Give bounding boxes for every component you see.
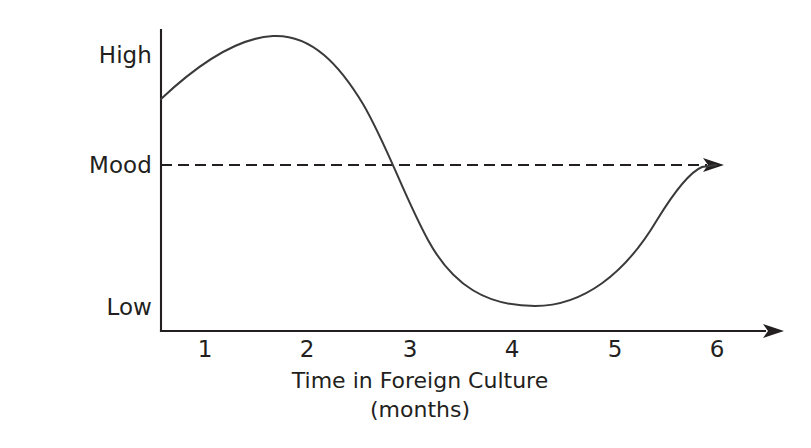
- x-tick-label-4: 4: [492, 338, 532, 361]
- x-axis-title-line-2: (months): [160, 395, 680, 424]
- mood-curve-line: [161, 36, 716, 306]
- x-tick-label-6: 6: [697, 338, 737, 361]
- y-tick-label-high: High: [52, 44, 152, 67]
- x-tick-label-2: 2: [287, 338, 327, 361]
- x-axis-title: Time in Foreign Culture (months): [160, 366, 680, 424]
- x-axis-title-line-1: Time in Foreign Culture: [292, 368, 548, 393]
- x-tick-label-1: 1: [185, 338, 225, 361]
- y-tick-label-mood: Mood: [32, 154, 152, 177]
- x-tick-label-5: 5: [595, 338, 635, 361]
- y-tick-label-low: Low: [52, 296, 152, 319]
- culture-shock-mood-chart: High Mood Low 1 2 3 4 5 6 Time in Foreig…: [0, 0, 811, 448]
- x-tick-label-3: 3: [390, 338, 430, 361]
- x-axis-arrow-icon: [763, 324, 784, 338]
